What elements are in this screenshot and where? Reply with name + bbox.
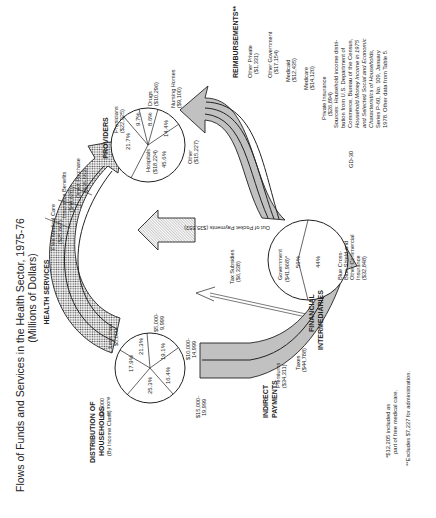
financial-heading-1: FINANCIAL bbox=[308, 294, 315, 332]
nursing-homes-pct: 8.6% bbox=[147, 112, 153, 126]
sources-line-4: Household Money Income in 1975 bbox=[354, 39, 360, 128]
reimbursements-heading: REIMBURSEMENTS** bbox=[232, 6, 239, 78]
financial-heading-2: INTERMEDIARIES bbox=[317, 290, 324, 350]
government-pct: 56% bbox=[295, 255, 301, 268]
households-pie: 17.9% 21.3% 19.1% 16.4% 25.3% bbox=[115, 333, 185, 403]
sources-line-5: and Selected Social and Economic bbox=[361, 38, 367, 128]
medicaid-value: ($12,435) bbox=[291, 58, 297, 82]
other-providers-pct: 14.4% bbox=[163, 119, 169, 137]
providers-heading: PROVIDERS bbox=[102, 117, 109, 159]
sources-line-6: Characteristics of Households, bbox=[368, 49, 374, 128]
other-government-value: ($17,154) bbox=[273, 50, 279, 74]
hospitals-value: ($18,224) bbox=[152, 150, 158, 174]
physicians-value: ($22,925) bbox=[119, 109, 125, 133]
taxes-value: ($44,788) bbox=[301, 348, 307, 372]
footnote-single-2: part of free medical care. bbox=[392, 389, 398, 454]
20000-plus-pct: 25.3% bbox=[147, 376, 153, 394]
footnote-double: **Excludes $7,227 for administration. bbox=[405, 371, 411, 466]
15000-19999-pct: 16.4% bbox=[165, 366, 171, 384]
5000-9999-value: 9,999 bbox=[159, 316, 165, 330]
indirect-heading-1: INDIRECT bbox=[262, 384, 269, 418]
sources-note: Sources: Household income distri- bution… bbox=[333, 38, 388, 128]
medicare-value: ($14,120) bbox=[309, 66, 315, 90]
sources-line-1: Sources: Household income distri- bbox=[333, 40, 339, 128]
insurance-benefits-label: Insurance Benefits bbox=[61, 171, 67, 218]
free-medical-care-label: Free Medical Care bbox=[50, 204, 56, 250]
direct-purchase-label: Direct Purchase bbox=[75, 158, 81, 198]
sources-line-7: Series P-60, No. 109, January bbox=[375, 50, 381, 128]
private-insurers-line-5: ($32,848) bbox=[361, 256, 367, 280]
free-medical-care-value: ($25,667) bbox=[57, 220, 63, 244]
diagram-page: Flows of Funds and Services in the Healt… bbox=[0, 0, 436, 518]
sources-line-3: Commerce, Bureau of the Census, bbox=[347, 38, 353, 128]
footnote-single-1: *$12,205 included as bbox=[385, 404, 391, 458]
tax-subsidies-value: ($6,338) bbox=[235, 261, 241, 282]
distribution-heading-1: DISTRIBUTION OF bbox=[89, 401, 96, 463]
other-providers-value: ($15,227) bbox=[193, 140, 199, 164]
drugs-pct: 9.7% bbox=[135, 112, 141, 126]
financial-pie: Government ($41,968)* 56% 44% bbox=[268, 220, 348, 300]
sources-line-2: bution from U.S. Department of bbox=[340, 47, 346, 128]
diagram-subtitle: (Millions of Dollars) bbox=[26, 253, 38, 342]
flow-diagram: Flows of Funds and Services in the Healt… bbox=[0, 0, 436, 518]
private-insurers-pct: 44% bbox=[315, 255, 321, 268]
other-private-value: ($1,331) bbox=[253, 53, 259, 74]
hospitals-pct: 45.6% bbox=[161, 150, 167, 168]
15000-19999-value: 19,999 bbox=[201, 399, 207, 416]
5000-9999-pct: 21.3% bbox=[138, 337, 144, 355]
footnotes: *$12,205 included as part of free medica… bbox=[385, 371, 411, 466]
distribution-heading-2: HOUSEHOLDS bbox=[98, 406, 105, 456]
10000-14999-pct: 19.1% bbox=[160, 342, 166, 360]
nursing-homes-value: ($9,100) bbox=[176, 87, 182, 108]
drugs-value: ($10,296) bbox=[153, 82, 159, 106]
physicians-pct: 21.7% bbox=[125, 132, 131, 150]
out-of-pocket-label: Out of Pocket Payments ($35,553) bbox=[184, 225, 270, 231]
government-label: Government bbox=[277, 249, 283, 280]
insurance-benefits-value: ($44,626) bbox=[68, 188, 74, 212]
diagram-title: Flows of Funds and Services in the Healt… bbox=[14, 218, 26, 492]
hospitals-label: Hospitals bbox=[145, 149, 151, 172]
distribution-subheading: (By Income Class) bbox=[106, 410, 112, 456]
lt5000-pct: 17.9% bbox=[128, 354, 134, 372]
government-value: ($41,968)* bbox=[284, 255, 290, 282]
premiums-value: ($34,311) bbox=[281, 364, 287, 388]
lt5000-value: $5,000 bbox=[113, 329, 119, 346]
sources-line-8: 1978. Other data from Table 5. bbox=[382, 49, 388, 128]
reimbursements-labels: Other Private ($1,331) Other Government … bbox=[247, 31, 333, 120]
figure-id: GD-30 bbox=[348, 151, 354, 168]
health-services-heading: HEALTH SERVICES bbox=[43, 259, 50, 324]
direct-purchase-value: ($35,553) bbox=[82, 168, 88, 192]
10000-14999-value: 14,999 bbox=[191, 341, 197, 358]
